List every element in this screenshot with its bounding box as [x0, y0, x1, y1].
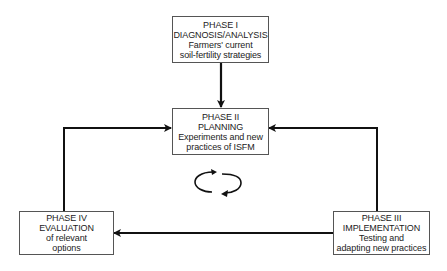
phase-3-desc-2: adapting new practices [337, 243, 427, 253]
phase-4-title: PHASE IV [46, 213, 87, 223]
phase-1-title: PHASE I [203, 20, 238, 30]
phase-1-desc-1: Farmers' current [188, 40, 252, 50]
phase-4-desc-2: options [52, 243, 80, 253]
phase-4-subtitle: EVALUATION [39, 223, 94, 233]
phase-2-box: PHASE II PLANNING Experiments and new pr… [172, 108, 269, 155]
phase-2-title: PHASE II [202, 112, 239, 122]
phase-3-box: PHASE III IMPLEMENTATION Testing and ada… [333, 211, 430, 255]
phase-4-desc-1: of relevant [46, 233, 87, 243]
phase-2-desc-2: practices of ISFM [186, 142, 254, 152]
phase-3-subtitle: IMPLEMENTATION [343, 223, 420, 233]
phase-3-title: PHASE III [362, 213, 402, 223]
phase-1-box: PHASE I DIAGNOSIS/ANALYSIS Farmers' curr… [172, 16, 269, 63]
arrow-phase3-to-phase2 [269, 128, 377, 211]
phase-1-subtitle: DIAGNOSIS/ANALYSIS [173, 30, 267, 40]
cycle-arrows-icon [195, 169, 241, 197]
phase-2-subtitle: PLANNING [198, 122, 243, 132]
phase-4-box: PHASE IV EVALUATION of relevant options [19, 211, 114, 255]
phase-2-desc-1: Experiments and new [178, 132, 263, 142]
phase-1-desc-2: soil-fertility strategies [180, 50, 262, 60]
arrow-phase4-to-phase2 [64, 128, 171, 211]
phase-3-desc-1: Testing and [359, 233, 404, 243]
